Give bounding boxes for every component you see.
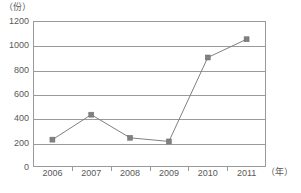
data-point-marker [50,137,55,142]
data-point-marker [244,37,249,42]
footnote [6,185,296,192]
data-point-marker [166,139,171,144]
data-series-line [0,0,301,193]
data-point-marker [205,55,210,60]
data-point-marker [128,135,133,140]
series-polyline [52,39,246,141]
data-point-marker [89,112,94,117]
line-chart: （份） （年） 020040060080010001200 2006200720… [0,0,301,193]
